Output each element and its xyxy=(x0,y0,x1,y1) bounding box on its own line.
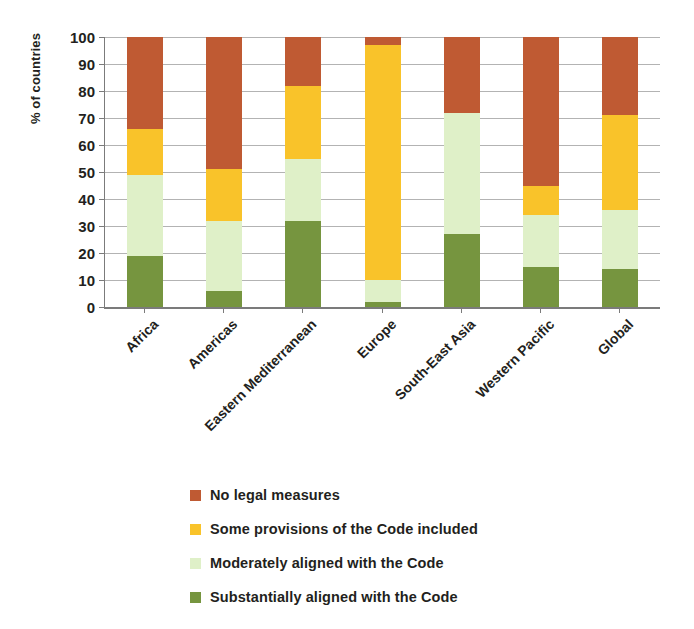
plot-area: 0102030405060708090100 xyxy=(104,37,660,307)
bar-stack xyxy=(602,37,638,307)
bar-segment xyxy=(206,291,242,307)
bar-segment xyxy=(365,45,401,280)
legend-item: Moderately aligned with the Code xyxy=(190,546,590,580)
bar-segment xyxy=(127,175,163,256)
bar-stack xyxy=(206,37,242,307)
legend-item-label: No legal measures xyxy=(210,487,340,503)
bar-segment xyxy=(127,37,163,129)
bar-segment xyxy=(444,113,480,235)
bar-segment xyxy=(285,221,321,307)
legend-item: No legal measures xyxy=(190,478,590,512)
x-axis-tick-label: Global xyxy=(595,316,637,358)
bar-segment xyxy=(285,86,321,159)
legend-color-swatch xyxy=(190,490,201,501)
y-axis-title: % of countries xyxy=(24,0,48,124)
stacked-bar-chart: % of countries 0102030405060708090100 Af… xyxy=(0,0,694,629)
x-axis-tick xyxy=(382,307,383,313)
bar-segment xyxy=(206,37,242,169)
legend-item-label: Moderately aligned with the Code xyxy=(210,555,444,571)
bar-segment xyxy=(127,129,163,175)
bar-segment xyxy=(444,37,480,113)
x-axis-tick-label: Western Pacific xyxy=(473,316,558,401)
legend-item-label: Substantially aligned with the Code xyxy=(210,589,458,605)
legend-item-label: Some provisions of the Code included xyxy=(210,521,478,537)
bar-segment xyxy=(523,186,559,216)
bar-segment xyxy=(523,267,559,308)
bar-segment xyxy=(523,37,559,186)
y-axis-tick-label: 40 xyxy=(78,191,95,208)
bar-segment xyxy=(602,269,638,307)
bar-segment xyxy=(602,37,638,115)
x-axis-tick-label: Africa xyxy=(122,316,161,355)
y-axis-tick-label: 100 xyxy=(70,29,95,46)
bar-segment xyxy=(365,280,401,302)
bar-segment xyxy=(127,256,163,307)
bar-stack xyxy=(444,37,480,307)
y-axis-tick-label: 60 xyxy=(78,137,95,154)
legend-item: Substantially aligned with the Code xyxy=(190,580,590,614)
bar-stack xyxy=(285,37,321,307)
bar-group xyxy=(365,37,401,307)
chart-legend: No legal measuresSome provisions of the … xyxy=(190,478,590,614)
bar-segment xyxy=(206,169,242,220)
x-axis-tick-label: Americas xyxy=(184,316,240,372)
x-axis-tick xyxy=(461,307,462,313)
x-axis-tick xyxy=(619,307,620,313)
y-axis-tick-label: 80 xyxy=(78,83,95,100)
legend-color-swatch xyxy=(190,558,201,569)
legend-color-swatch xyxy=(190,592,201,603)
bar-segment xyxy=(206,221,242,291)
bar-group xyxy=(285,37,321,307)
bar-stack xyxy=(127,37,163,307)
bar-group xyxy=(444,37,480,307)
y-axis-tick-label: 20 xyxy=(78,245,95,262)
x-axis-tick-label: South-East Asia xyxy=(391,316,478,403)
bars-layer xyxy=(105,37,660,307)
bar-group xyxy=(523,37,559,307)
bar-segment xyxy=(523,215,559,266)
y-axis-tick-label: 30 xyxy=(78,218,95,235)
bar-group xyxy=(127,37,163,307)
bar-stack xyxy=(365,37,401,307)
x-axis-tick xyxy=(223,307,224,313)
legend-color-swatch xyxy=(190,524,201,535)
bar-segment xyxy=(285,37,321,86)
bar-group xyxy=(206,37,242,307)
y-axis-tick-label: 10 xyxy=(78,272,95,289)
bar-segment xyxy=(285,159,321,221)
bar-segment xyxy=(602,115,638,210)
y-axis-tick-label: 70 xyxy=(78,110,95,127)
x-axis-tick-label: Europe xyxy=(353,316,398,361)
bar-segment xyxy=(365,37,401,45)
x-axis-tick xyxy=(144,307,145,313)
bar-stack xyxy=(523,37,559,307)
bar-segment xyxy=(602,210,638,269)
bar-segment xyxy=(444,234,480,307)
y-axis-tick-label: 0 xyxy=(87,299,95,316)
legend-item: Some provisions of the Code included xyxy=(190,512,590,546)
x-axis-tick xyxy=(540,307,541,313)
y-axis-tick-label: 50 xyxy=(78,164,95,181)
x-axis-tick xyxy=(302,307,303,313)
bar-group xyxy=(602,37,638,307)
y-axis-tick-label: 90 xyxy=(78,56,95,73)
